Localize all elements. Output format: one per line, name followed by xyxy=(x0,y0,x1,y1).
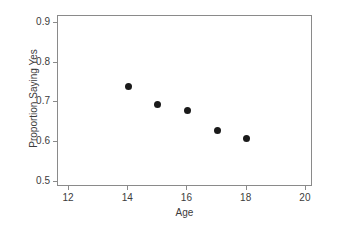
y-axis-tick-label: 0.5 xyxy=(22,176,50,186)
x-axis-tick-label: 16 xyxy=(171,192,201,204)
x-axis-tick xyxy=(246,186,247,190)
y-axis-tick xyxy=(53,141,57,142)
x-axis-label: Age xyxy=(57,207,312,218)
y-axis-tick xyxy=(53,181,57,182)
scatter-plot-figure: Age Proportion Saying Yes 12141618200.50… xyxy=(0,0,338,233)
data-point xyxy=(243,135,250,142)
x-axis-tick xyxy=(127,186,128,190)
x-axis-tick-label: 12 xyxy=(53,192,83,204)
y-axis-tick xyxy=(53,101,57,102)
plot-frame xyxy=(57,15,312,186)
data-point xyxy=(184,107,191,114)
y-axis-tick-label: 0.6 xyxy=(22,136,50,146)
x-axis-tick-label: 14 xyxy=(112,192,142,204)
y-axis-tick xyxy=(53,62,57,63)
y-axis-tick xyxy=(53,22,57,23)
data-point xyxy=(125,83,132,90)
y-axis-tick-label: 0.9 xyxy=(22,17,50,27)
x-axis-tick-label: 18 xyxy=(231,192,261,204)
x-axis-tick xyxy=(68,186,69,190)
data-point xyxy=(214,127,221,134)
x-axis-tick-label: 20 xyxy=(290,192,320,204)
y-axis-tick-label: 0.7 xyxy=(22,96,50,106)
plot-data-area xyxy=(58,16,311,185)
data-point xyxy=(154,101,161,108)
y-axis-tick-label: 0.8 xyxy=(22,57,50,67)
x-axis-tick xyxy=(305,186,306,190)
x-axis-tick xyxy=(186,186,187,190)
